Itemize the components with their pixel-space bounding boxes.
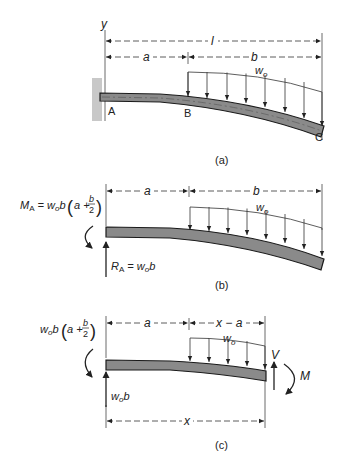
caption-b: (b) <box>215 279 228 291</box>
internal-moment-arrow-icon <box>284 364 295 394</box>
point-label-b: B <box>184 107 191 119</box>
moment-arrow-icon <box>85 349 93 377</box>
dim-label-x: x <box>183 414 191 428</box>
frac-den: 2 <box>89 205 94 215</box>
dim-label-l: l <box>211 34 214 48</box>
panel-c: a x − a wo wob ( a + b 2 ) wob V M <box>40 316 310 451</box>
dim-label-b: b <box>253 184 260 198</box>
dim-label-a: a <box>143 50 150 64</box>
frac-num: b <box>83 318 88 328</box>
internal-moment-label-m: M <box>300 369 310 383</box>
panel-a: y l a b wo A B C (a) <box>92 17 324 166</box>
paren-close: ) <box>90 321 96 341</box>
dim-label-a: a <box>144 184 151 198</box>
caption-c: (c) <box>215 439 228 451</box>
caption-a: (a) <box>215 154 228 166</box>
paren-a-plus: a + <box>67 323 83 335</box>
paren-a-plus: a + <box>74 199 90 211</box>
moment-label: wob <box>40 323 59 337</box>
shear-label-v: V <box>271 348 280 362</box>
point-label-a: A <box>108 105 116 117</box>
dim-label-x-minus-a: x − a <box>215 316 243 330</box>
reaction-label: wob <box>111 390 130 404</box>
paren-close: ) <box>96 197 102 217</box>
dim-label-a: a <box>144 316 151 330</box>
y-axis-label: y <box>100 17 108 31</box>
paren-open: ( <box>67 197 73 217</box>
moment-arrow-icon <box>85 226 93 248</box>
load-label-wo: wo <box>223 332 236 347</box>
deflected-beam <box>100 93 324 137</box>
reaction-ra-label: RA = wob <box>111 260 155 274</box>
beam-segment <box>106 360 266 381</box>
point-label-c: C <box>315 131 323 143</box>
panel-b: a b wo MA = wob ( a + b 2 ) <box>20 184 324 291</box>
frac-num: b <box>89 194 94 204</box>
moment-ma-label: MA = wob <box>20 199 66 213</box>
frac-den: 2 <box>83 329 88 339</box>
dim-label-b: b <box>251 50 258 64</box>
beam-diagram-figure: y l a b wo A B C (a) <box>0 0 344 451</box>
